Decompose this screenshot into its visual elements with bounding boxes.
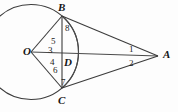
point-label-B: B xyxy=(58,2,65,13)
angle-label-3: 3 xyxy=(48,46,53,55)
angle-label-7: 7 xyxy=(61,78,66,87)
point-label-O: O xyxy=(23,46,31,57)
point-label-C: C xyxy=(58,95,65,106)
segment-OB xyxy=(31,16,62,52)
angle-label-8: 8 xyxy=(65,24,70,33)
angle-label-1: 1 xyxy=(129,45,134,54)
point-label-D: D xyxy=(64,57,72,68)
geometry-figure: B O C D A 8 5 3 4 6 7 1 2 xyxy=(0,0,178,112)
point-label-A: A xyxy=(163,49,170,60)
angle-label-2: 2 xyxy=(129,59,134,68)
segment-CA xyxy=(62,56,158,88)
angle-label-6: 6 xyxy=(53,66,58,75)
